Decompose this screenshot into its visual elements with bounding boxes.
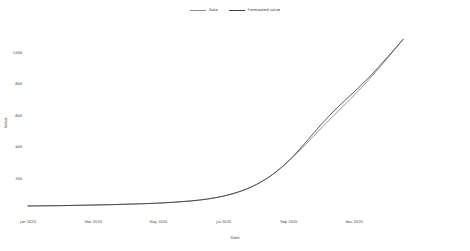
y-tick-label: 400 <box>0 146 22 150</box>
y-tick-label: 800 <box>0 83 22 87</box>
legend-label: Data <box>209 9 218 13</box>
series-line-forecast <box>28 39 403 206</box>
legend-entry[interactable]: Data <box>190 9 218 13</box>
x-axis-title: Date <box>0 236 470 240</box>
x-tick-label: Jan 2020 <box>20 221 36 225</box>
chart-legend: DataForecasted value <box>0 9 470 13</box>
y-axis-title: Value <box>4 118 8 128</box>
legend-entry[interactable]: Forecasted value <box>229 9 280 13</box>
y-tick-label: 600 <box>0 115 22 119</box>
y-tick-label: 200 <box>0 178 22 182</box>
x-tick-label: Mar 2020 <box>85 221 102 225</box>
legend-label: Forecasted value <box>248 9 280 13</box>
legend-swatch-forecast <box>229 10 245 11</box>
x-tick-label: Jul 2020 <box>216 221 231 225</box>
series-canvas <box>28 30 403 211</box>
x-tick-label: May 2020 <box>150 221 168 225</box>
line-chart: DataForecasted value Value 2004006008001… <box>0 0 470 251</box>
x-tick-label: Nov 2020 <box>345 221 362 225</box>
x-tick-label: Sep 2020 <box>280 221 297 225</box>
legend-swatch-data <box>190 10 206 11</box>
series-line-data <box>28 39 403 206</box>
y-tick-label: 1000 <box>0 52 22 56</box>
plot-area <box>28 30 403 211</box>
